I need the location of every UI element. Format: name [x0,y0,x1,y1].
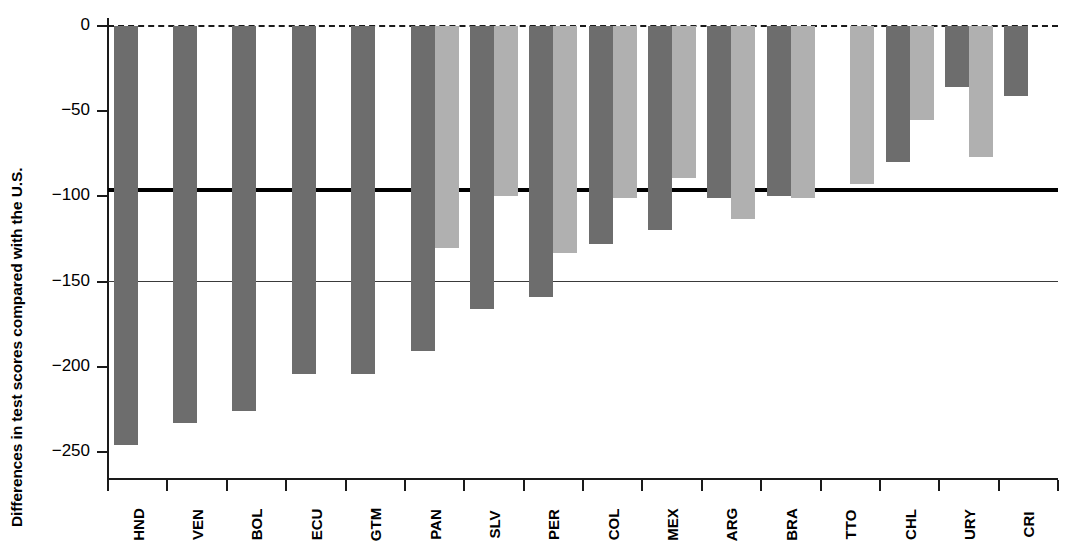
bar-slv-light [494,26,518,196]
x-tick-mark [1057,480,1059,491]
bar-mex-light [672,26,696,178]
figure: Differences in test scores compared with… [0,0,1067,545]
x-tick-label-ury: URY [960,495,977,545]
x-tick-mark [820,480,822,491]
x-tick-label-chl: CHL [901,495,918,545]
bar-ven-dark [173,26,197,423]
y-tick-label: −100 [28,185,90,205]
bar-mex-dark [648,26,672,230]
y-tick-mark [97,366,108,368]
x-tick-label-mex: MEX [664,495,681,545]
bar-chl-light [910,26,934,120]
bar-arg-light [731,26,755,219]
bar-ecu-dark [292,26,316,374]
x-tick-mark [879,480,881,491]
x-tick-mark [345,480,347,491]
bar-arg-dark [707,26,731,198]
bar-bol-dark [232,26,256,411]
x-tick-label-col: COL [604,495,621,545]
x-tick-label-ven: VEN [189,495,206,545]
y-tick-label: −250 [28,441,90,461]
y-tick-label: −50 [28,100,90,120]
x-tick-mark [166,480,168,491]
bar-pan-light [435,26,459,248]
bar-tto-light [850,26,874,184]
y-tick-label: −150 [28,271,90,291]
x-tick-label-arg: ARG [723,495,740,545]
bar-col-dark [589,26,613,244]
bar-cri-dark [1004,26,1028,96]
x-tick-label-ecu: ECU [307,495,324,545]
y-tick-mark [97,110,108,112]
x-tick-label-cri: CRI [1020,495,1037,545]
x-tick-mark [760,480,762,491]
x-tick-label-tto: TTO [842,495,859,545]
x-tick-mark [523,480,525,491]
bar-per-light [553,26,577,253]
x-tick-mark [285,480,287,491]
y-tick-mark [97,451,108,453]
x-tick-label-gtm: GTM [367,495,384,545]
x-tick-label-bra: BRA [782,495,799,545]
x-tick-mark [226,480,228,491]
bar-per-dark [529,26,553,297]
bar-bra-dark [767,26,791,196]
y-tick-mark [97,25,108,27]
y-axis-line [107,18,109,478]
x-tick-label-hnd: HND [129,495,146,545]
bar-pan-dark [411,26,435,351]
x-tick-mark [463,480,465,491]
y-tick-label: −200 [28,356,90,376]
bar-slv-dark [470,26,494,309]
bar-hnd-dark [114,26,138,445]
x-tick-label-bol: BOL [248,495,265,545]
x-tick-mark [701,480,703,491]
x-tick-mark [641,480,643,491]
bar-col-light [613,26,637,198]
y-tick-label: 0 [28,15,90,35]
bar-ury-light [969,26,993,157]
x-tick-label-per: PER [545,495,562,545]
x-tick-label-pan: PAN [426,495,443,545]
x-tick-mark [998,480,1000,491]
bar-bra-light [791,26,815,198]
x-tick-mark [404,480,406,491]
x-tick-mark [582,480,584,491]
y-tick-mark [97,195,108,197]
bar-chl-dark [886,26,910,162]
bar-gtm-dark [351,26,375,374]
x-tick-mark [938,480,940,491]
bar-ury-dark [945,26,969,87]
y-tick-mark [97,281,108,283]
x-tick-mark [107,480,109,491]
x-tick-label-slv: SLV [485,495,502,545]
